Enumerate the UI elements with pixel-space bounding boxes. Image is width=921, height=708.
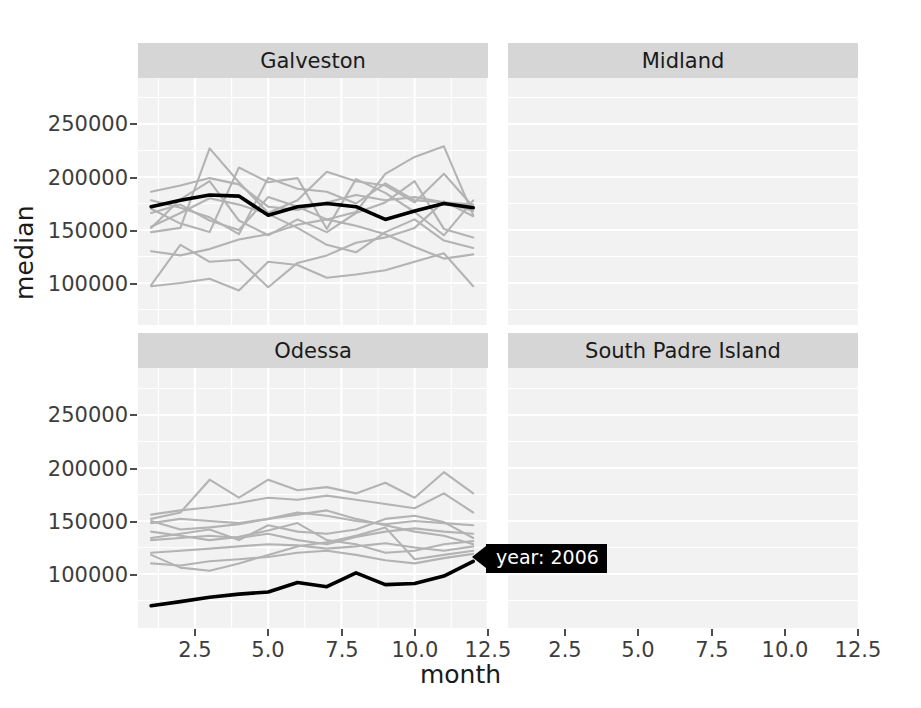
x-tick-label: 12.5 — [823, 638, 893, 662]
facet-panel-odessa — [138, 368, 488, 628]
y-tick-mark — [130, 414, 137, 416]
y-tick-mark — [130, 521, 137, 523]
x-tick-mark — [711, 629, 713, 636]
chart-root: median 250000 200000 150000 100000 25000… — [0, 0, 921, 708]
y-tick-label: 100000 — [28, 272, 128, 296]
x-tick-mark — [341, 629, 343, 636]
x-tick-label: 5.0 — [233, 638, 303, 662]
facet-panel-galveston-plot — [138, 78, 488, 325]
x-tick-mark — [267, 629, 269, 636]
x-tick-mark — [857, 629, 859, 636]
y-tick-label: 200000 — [28, 457, 128, 481]
x-tick-label: 2.5 — [160, 638, 230, 662]
y-tick-label: 250000 — [28, 112, 128, 136]
y-tick-mark — [130, 468, 137, 470]
x-tick-mark — [637, 629, 639, 636]
x-tick-label: 2.5 — [530, 638, 600, 662]
facet-strip-label: Midland — [642, 49, 725, 73]
facet-strip-label: South Padre Island — [585, 339, 781, 363]
x-tick-label: 7.5 — [677, 638, 747, 662]
highlight-line-2006 — [151, 561, 473, 606]
x-tick-mark — [564, 629, 566, 636]
facet-panel-south-padre-island-plot — [508, 368, 858, 628]
x-axis-title: month — [0, 660, 921, 689]
y-tick-mark — [130, 283, 137, 285]
facet-strip-label: Odessa — [274, 339, 352, 363]
facet-panel-odessa-plot — [138, 368, 488, 628]
background-line-2001 — [151, 493, 473, 514]
x-tick-label: 10.0 — [380, 638, 450, 662]
annotation-tooltip: year: 2006 — [486, 544, 607, 573]
y-tick-label: 150000 — [28, 219, 128, 243]
facet-strip-midland: Midland — [508, 43, 858, 78]
facet-strip-label: Galveston — [260, 49, 366, 73]
y-tick-label: 150000 — [28, 510, 128, 534]
y-tick-label: 200000 — [28, 166, 128, 190]
y-tick-label: 250000 — [28, 403, 128, 427]
y-tick-mark — [130, 123, 137, 125]
x-tick-label: 7.5 — [307, 638, 377, 662]
x-tick-label: 5.0 — [603, 638, 673, 662]
facet-panel-south-padre-island — [508, 368, 858, 628]
x-tick-mark — [194, 629, 196, 636]
x-tick-label: 10.0 — [750, 638, 820, 662]
x-tick-mark — [487, 629, 489, 636]
facet-strip-odessa: Odessa — [138, 333, 488, 368]
y-tick-label: 100000 — [28, 563, 128, 587]
y-tick-mark — [130, 574, 137, 576]
facet-panel-midland-plot — [508, 78, 858, 325]
x-tick-mark — [784, 629, 786, 636]
facet-strip-south-padre-island: South Padre Island — [508, 333, 858, 368]
facet-panel-midland — [508, 78, 858, 325]
x-tick-mark — [414, 629, 416, 636]
x-tick-label: 12.5 — [453, 638, 523, 662]
y-tick-mark — [130, 177, 137, 179]
annotation-arrow-icon — [472, 546, 486, 568]
facet-strip-galveston: Galveston — [138, 43, 488, 78]
y-tick-mark — [130, 230, 137, 232]
facet-panel-galveston — [138, 78, 488, 325]
